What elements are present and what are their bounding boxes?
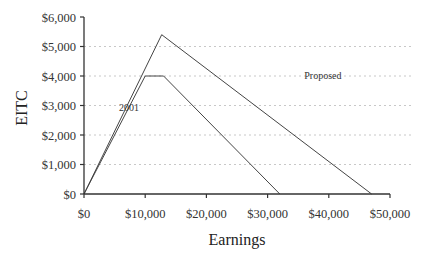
y-tick-label: $2,000 (42, 129, 76, 143)
y-tick-label: $4,000 (42, 70, 76, 84)
y-tick-label: $6,000 (42, 11, 76, 25)
x-tick-label: $10,000 (125, 207, 166, 221)
series-label: Proposed (304, 70, 341, 81)
x-tick-label: $50,000 (370, 207, 411, 221)
x-tick-label: $0 (78, 207, 91, 221)
x-tick-label: $30,000 (247, 207, 288, 221)
y-tick-label: $5,000 (42, 40, 76, 54)
series-lines (84, 35, 372, 194)
series-line-proposed (84, 35, 372, 194)
y-tick-label: $1,000 (42, 158, 76, 172)
y-tick-labels: $0$1,000$2,000$3,000$4,000$5,000$6,000 (42, 11, 76, 202)
x-axis-title: Earnings (209, 231, 266, 249)
series-label: 2001 (119, 102, 139, 113)
y-axis-title: EITC (13, 90, 30, 126)
x-tick-label: $40,000 (308, 207, 349, 221)
eitc-chart: $0$1,000$2,000$3,000$4,000$5,000$6,000 $… (0, 0, 423, 257)
x-tick-labels: $0$10,000$20,000$30,000$40,000$50,000 (78, 207, 411, 221)
y-tick-label: $3,000 (42, 99, 76, 113)
y-tick-label: $0 (64, 188, 77, 202)
x-tick-label: $20,000 (186, 207, 227, 221)
